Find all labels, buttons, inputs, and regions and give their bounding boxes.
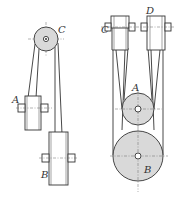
left-diagram: C A B (11, 22, 78, 185)
label-a-left: A (11, 94, 19, 105)
label-b-right: B (143, 164, 151, 175)
shaft-d-right (141, 16, 171, 50)
label-b-left: B (40, 169, 48, 180)
shaft-c-right (105, 16, 135, 50)
belt-pulley-figure: C A B (0, 0, 180, 202)
label-d-right: D (145, 5, 154, 16)
label-a-right: A (131, 82, 139, 93)
label-c-right: C (101, 24, 109, 35)
pulley-b-right (110, 128, 168, 192)
label-c-left: C (58, 24, 66, 35)
shaft-a-left (16, 96, 52, 130)
right-diagram: C D A B (101, 5, 174, 192)
